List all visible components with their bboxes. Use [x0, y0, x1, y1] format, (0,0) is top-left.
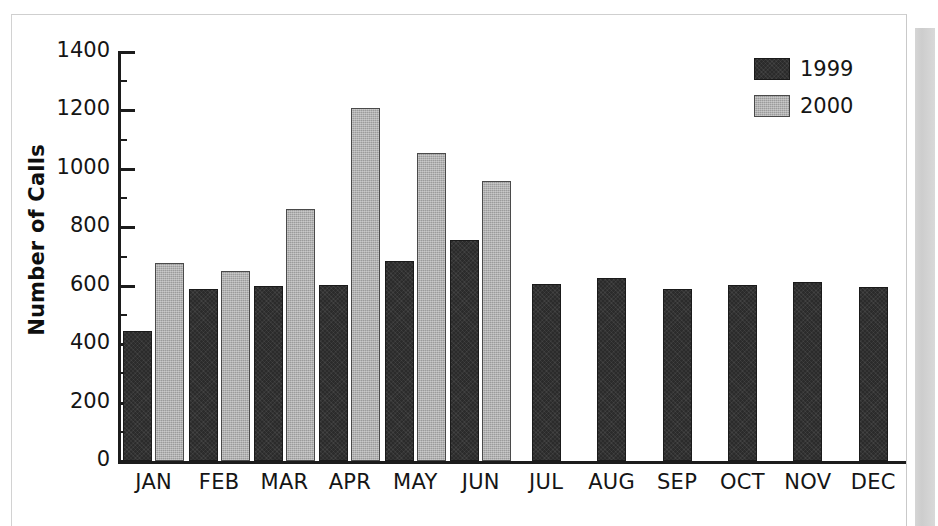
bar-1999-jan: [123, 331, 152, 461]
bar-2000-apr: [351, 108, 380, 461]
bar-2000-may: [417, 153, 446, 461]
x-axis-line: [118, 461, 906, 464]
bar-1999-dec: [859, 287, 888, 461]
bar-1999-aug: [597, 278, 626, 461]
legend-swatch-2000: [754, 95, 790, 117]
page-edge-shadow: [913, 28, 935, 526]
chart-legend: 19992000: [754, 56, 894, 130]
legend-item-1999: 1999: [754, 56, 894, 82]
bar-2000-mar: [286, 209, 315, 461]
bar-2000-jun: [482, 181, 511, 461]
bar-1999-may: [385, 261, 414, 461]
chart-figure: 0200400600800100012001400 Number of Call…: [0, 0, 938, 526]
y-axis-tick-label: 1400: [30, 38, 110, 62]
y-axis-tick-label: 200: [30, 389, 110, 413]
bar-1999-feb: [189, 289, 218, 461]
bar-1999-nov: [793, 282, 822, 461]
bar-1999-apr: [319, 285, 348, 461]
bar-2000-feb: [221, 271, 250, 461]
y-axis-title: Number of Calls: [25, 110, 49, 370]
legend-item-2000: 2000: [754, 93, 894, 119]
bar-1999-jul: [532, 284, 561, 461]
y-axis-tick-label: 0: [30, 447, 110, 471]
bar-1999-mar: [254, 286, 283, 461]
legend-swatch-1999: [754, 58, 790, 80]
bar-1999-sep: [663, 289, 692, 461]
bar-1999-jun: [450, 240, 479, 461]
legend-label-2000: 2000: [800, 94, 853, 118]
legend-label-1999: 1999: [800, 57, 853, 81]
x-axis-tick-label-dec: DEC: [833, 470, 913, 494]
bar-1999-oct: [728, 285, 757, 461]
bar-2000-jan: [155, 263, 184, 461]
